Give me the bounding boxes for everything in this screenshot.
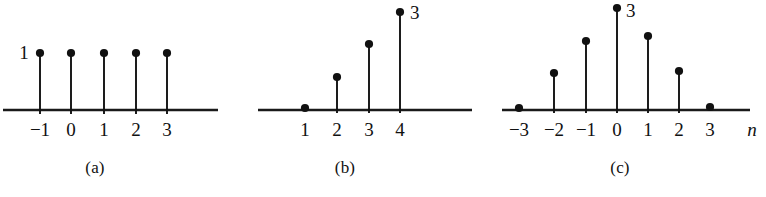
stem-head <box>301 104 309 112</box>
panel-a: 1 −1 0 1 2 3 (a) <box>0 0 255 197</box>
tick-label: 2 <box>674 119 684 140</box>
tick-label: 2 <box>131 119 141 140</box>
tick-label: 3 <box>162 119 172 140</box>
stem-head <box>613 4 621 12</box>
tick-label-group: −3 −2 −1 0 1 2 3 <box>509 119 715 140</box>
stem-head <box>36 49 44 57</box>
tick-label: −1 <box>576 119 596 140</box>
tick-label: 4 <box>395 119 405 140</box>
stem-head <box>163 49 171 57</box>
stem-head <box>396 8 404 16</box>
panel-b-plot: 3 1 2 3 4 <box>255 0 500 155</box>
value-label: 1 <box>19 42 29 63</box>
stem-group <box>36 49 171 114</box>
stem-head <box>550 69 558 77</box>
tick-label: 0 <box>612 119 622 140</box>
value-label: 3 <box>410 2 420 23</box>
stem-head <box>132 49 140 57</box>
stem-plot-figure: 1 −1 0 1 2 3 (a) <box>0 0 766 197</box>
tick-label: 1 <box>643 119 653 140</box>
stem-head <box>582 37 590 45</box>
panel-caption-b: (b) <box>240 158 450 178</box>
stem-head <box>706 103 714 111</box>
panel-c: 3 −3 −2 −1 0 1 2 3 n (c) <box>500 0 766 197</box>
tick-label-group: −1 0 1 2 3 <box>30 119 172 140</box>
panel-caption-c: (c) <box>505 158 735 178</box>
tick-label: 1 <box>300 119 310 140</box>
tick-label-group: 1 2 3 4 <box>300 119 405 140</box>
stem-head <box>515 104 523 112</box>
panel-a-plot: 1 −1 0 1 2 3 <box>0 0 255 155</box>
panel-c-plot: 3 −3 −2 −1 0 1 2 3 n <box>500 0 766 155</box>
stem-head <box>333 73 341 81</box>
stem-group <box>515 4 714 113</box>
value-label: 3 <box>626 0 636 21</box>
stem-head <box>67 49 75 57</box>
tick-label: −3 <box>509 119 529 140</box>
panel-caption-a: (a) <box>0 158 190 178</box>
stem-group <box>301 8 404 113</box>
tick-label: 1 <box>99 119 109 140</box>
tick-label: −2 <box>544 119 564 140</box>
panel-b: 3 1 2 3 4 (b) <box>255 0 500 197</box>
tick-label: 0 <box>66 119 76 140</box>
tick-label: −1 <box>30 119 50 140</box>
stem-head <box>644 32 652 40</box>
stem-head <box>675 67 683 75</box>
tick-label: 2 <box>332 119 342 140</box>
stem-head <box>365 40 373 48</box>
tick-label: 3 <box>705 119 715 140</box>
tick-label: 3 <box>364 119 374 140</box>
stem-head <box>100 49 108 57</box>
x-axis-label: n <box>747 119 757 140</box>
